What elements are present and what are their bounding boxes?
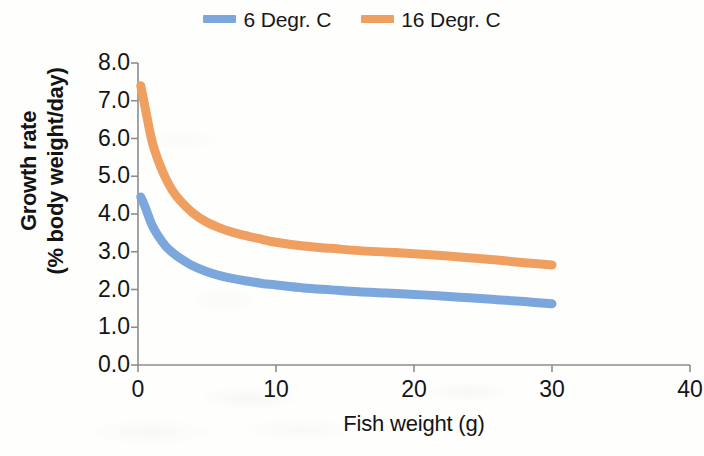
axis-ticks: [131, 63, 690, 372]
data-series-layer: [141, 86, 552, 304]
growth-rate-line-chart: 6 Degr. C 16 Degr. C Growth rate (% body…: [0, 0, 704, 456]
plot-area: [0, 0, 704, 456]
series-line-16-degr-c: [141, 86, 552, 265]
axis-lines: [138, 63, 690, 365]
